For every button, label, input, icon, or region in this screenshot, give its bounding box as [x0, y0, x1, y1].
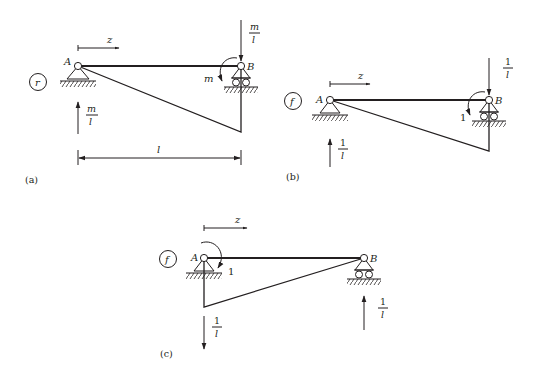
caption-b: (b) — [286, 171, 300, 182]
span-label: l — [157, 144, 160, 155]
z-label: z — [234, 214, 241, 225]
moment-label: m — [204, 73, 213, 84]
reaction-a-den: l — [215, 328, 218, 339]
tag-circle: f — [285, 93, 302, 110]
span-dimension: l — [78, 144, 241, 165]
reaction-a-num: 1 — [214, 315, 220, 326]
node-a — [74, 62, 81, 69]
panel-c: z f A 1 B 1 — [160, 214, 389, 359]
reaction-b-den: l — [381, 309, 384, 320]
reaction-arrow-b: m l — [241, 20, 260, 61]
z-axis-arrow: z — [204, 214, 247, 231]
node-b — [360, 254, 367, 261]
node-a-label: A — [63, 56, 71, 67]
panel-a: z r A B — [25, 20, 260, 185]
node-b-label: B — [246, 61, 254, 72]
reaction-a-num: m — [87, 103, 96, 114]
caption-a: (a) — [25, 174, 38, 185]
panel-b: z f A B 1 l — [285, 56, 514, 182]
reaction-arrow-a: 1 l — [330, 137, 348, 167]
caption-c: (c) — [160, 348, 173, 359]
node-a-label: A — [315, 94, 323, 105]
moment-label: 1 — [228, 266, 234, 277]
node-b — [237, 62, 244, 69]
reaction-arrow-b: 1 l — [364, 296, 388, 330]
node-a — [200, 254, 207, 261]
reaction-b-num: m — [250, 21, 259, 32]
z-axis-arrow: z — [78, 34, 119, 51]
reaction-arrow-a: 1 l — [204, 315, 222, 349]
z-label: z — [357, 70, 364, 81]
moment-label: 1 — [460, 112, 466, 123]
moment-arrow-b: m — [204, 58, 237, 84]
reaction-b-den: l — [506, 69, 509, 80]
moment-diagram — [330, 100, 489, 151]
node-b-label: B — [369, 253, 377, 264]
reaction-a-num: 1 — [340, 137, 346, 148]
structural-diagram: z r A B — [0, 0, 537, 365]
z-label: z — [106, 34, 113, 45]
node-a-label: A — [190, 252, 198, 263]
tag-label: f — [289, 96, 296, 107]
reaction-b-num: 1 — [505, 56, 511, 67]
reaction-arrow-b: 1 l — [489, 56, 513, 95]
node-b — [485, 96, 492, 103]
reaction-b-num: 1 — [380, 296, 386, 307]
reaction-arrow-a: m l — [78, 102, 98, 134]
reaction-b-den: l — [252, 34, 255, 45]
reaction-a-den: l — [89, 116, 92, 127]
tag-label: r — [35, 77, 41, 88]
tag-circle: r — [30, 74, 47, 91]
tag-label: f — [164, 254, 171, 265]
node-b-label: B — [494, 95, 502, 106]
tag-circle: f — [160, 251, 177, 268]
moment-diagram — [78, 66, 241, 132]
reaction-a-den: l — [341, 150, 344, 161]
node-a — [326, 96, 333, 103]
z-axis-arrow: z — [330, 70, 370, 87]
